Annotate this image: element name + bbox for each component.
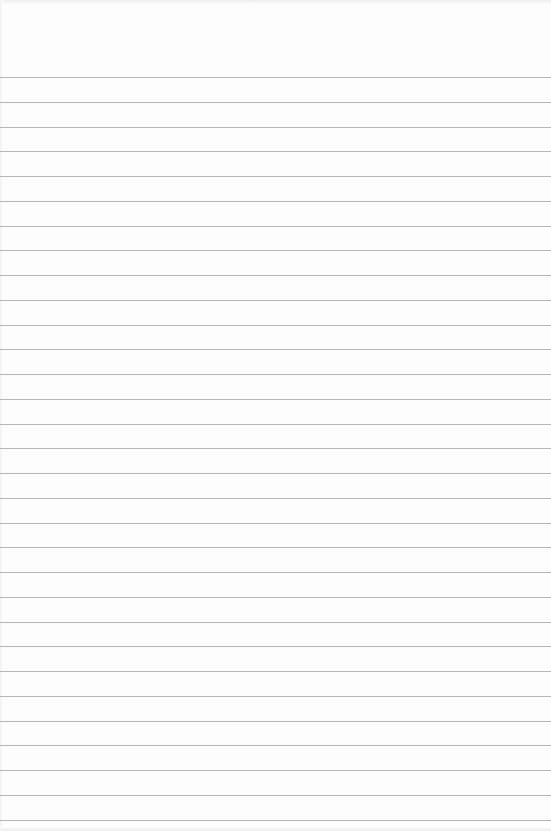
ruled-line (0, 646, 551, 647)
ruled-line (0, 745, 551, 746)
ruled-line (0, 226, 551, 227)
ruled-line (0, 374, 551, 375)
ruled-line (0, 424, 551, 425)
ruled-line (0, 176, 551, 177)
ruled-line (0, 127, 551, 128)
ruled-line (0, 325, 551, 326)
ruled-line (0, 671, 551, 672)
ruled-line (0, 275, 551, 276)
ruled-line (0, 300, 551, 301)
ruled-line (0, 770, 551, 771)
ruled-line (0, 151, 551, 152)
ruled-line (0, 795, 551, 796)
ruled-line (0, 696, 551, 697)
ruled-line (0, 102, 551, 103)
ruled-line (0, 349, 551, 350)
ruled-line (0, 498, 551, 499)
ruled-line (0, 547, 551, 548)
ruled-line (0, 399, 551, 400)
ruled-line (0, 250, 551, 251)
ruled-line (0, 473, 551, 474)
scan-bottom-shadow (0, 827, 551, 831)
ruled-line (0, 820, 551, 821)
ruled-line (0, 622, 551, 623)
ruled-line (0, 448, 551, 449)
ruled-line (0, 572, 551, 573)
ruled-line (0, 77, 551, 78)
scan-left-shadow (0, 0, 3, 831)
ruled-line (0, 597, 551, 598)
ruled-line (0, 201, 551, 202)
ruled-line (0, 721, 551, 722)
lined-paper-sheet (0, 0, 551, 831)
ruled-line (0, 523, 551, 524)
scan-top-shadow (0, 0, 551, 4)
